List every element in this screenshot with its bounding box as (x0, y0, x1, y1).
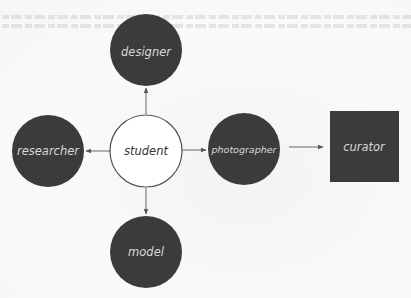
node-model-label: model (128, 245, 165, 259)
diagram-canvas: designer student researcher photographer… (0, 0, 411, 298)
node-student[interactable]: student (110, 115, 182, 187)
node-curator-label: curator (343, 140, 386, 154)
node-curator[interactable]: curator (330, 111, 399, 182)
node-designer[interactable]: designer (110, 14, 182, 86)
node-researcher[interactable]: researcher (12, 115, 84, 187)
node-student-label: student (124, 144, 168, 158)
node-designer-label: designer (121, 45, 172, 59)
node-photographer-label: photographer (211, 144, 278, 155)
node-researcher-label: researcher (17, 144, 80, 158)
node-photographer[interactable]: photographer (208, 113, 280, 185)
diagram-svg: designer student researcher photographer… (0, 0, 411, 298)
node-model[interactable]: model (110, 216, 182, 288)
